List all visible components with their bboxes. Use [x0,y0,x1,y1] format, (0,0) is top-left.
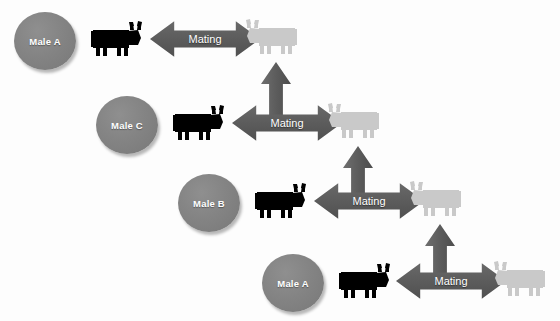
male-node-1[interactable]: Male A [14,12,76,70]
male-node-3[interactable]: Male B [178,174,240,232]
male-node-label: Male B [193,198,225,209]
male-node-2[interactable]: Male C [96,96,158,154]
male-node-4[interactable]: Male A [262,254,324,312]
black-cow-icon [252,178,308,222]
male-node-label: Male C [111,120,143,131]
black-cow-icon [336,258,392,302]
gray-cow-icon [244,14,300,58]
black-cow-icon [88,16,144,60]
male-node-label: Male A [29,36,60,47]
double-arrow-icon [396,260,506,302]
diagram-canvas: Male A Mating [0,0,560,321]
gray-cow-icon [326,98,382,142]
gray-cow-icon [492,256,548,300]
gray-cow-icon [408,176,464,220]
mating-arrow-4[interactable]: Mating [396,260,506,302]
black-cow-icon [170,100,226,144]
male-node-label: Male A [277,278,308,289]
